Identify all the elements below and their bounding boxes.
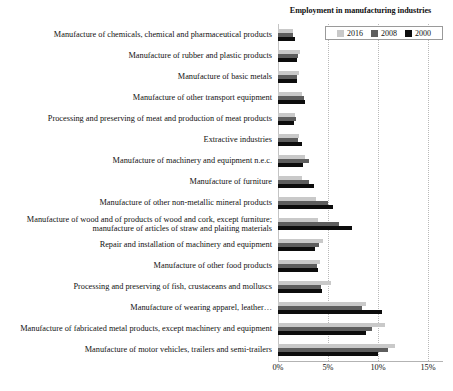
- category-label: Processing and preserving of fish, crust…: [4, 282, 272, 292]
- category-label: Manufacture of rubber and plastic produc…: [4, 51, 272, 61]
- category-label: Manufacture of basic metals: [4, 72, 272, 82]
- category-label: Manufacture of wearing apparel, leather…: [4, 303, 272, 313]
- bar-2000[interactable]: [278, 100, 305, 104]
- bar-2000[interactable]: [278, 331, 366, 335]
- bar-2000[interactable]: [278, 79, 297, 83]
- value-axis-tick-labels: 0%5%10%15%: [278, 363, 453, 377]
- bar-group: [278, 155, 443, 167]
- chart-title: Employment in manufacturing industries: [268, 6, 453, 16]
- category-label: Manufacture of other transport equipment: [4, 93, 272, 103]
- bar-group: [278, 302, 443, 314]
- bar-2000[interactable]: [278, 142, 302, 146]
- bar-group: [278, 113, 443, 125]
- bar-group: [278, 218, 443, 230]
- bar-group: [278, 323, 443, 335]
- bar-2000[interactable]: [278, 163, 303, 167]
- bar-2000[interactable]: [278, 226, 352, 230]
- legend-item-2000[interactable]: 2000: [405, 29, 431, 38]
- category-label: Manufacture of fabricated metal products…: [4, 324, 272, 334]
- chart-legend: 201620082000: [325, 26, 443, 40]
- category-label: Manufacture of wood and of products of w…: [4, 215, 272, 234]
- category-label: Manufacture of other non-metallic minera…: [4, 198, 272, 208]
- bar-2000[interactable]: [278, 205, 333, 209]
- category-label: Manufacture of machinery and equipment n…: [4, 156, 272, 166]
- category-label: Processing and preserving of meat and pr…: [4, 114, 272, 124]
- legend-item-2016[interactable]: 2016: [337, 29, 363, 38]
- category-axis-labels: Manufacture of chemicals, chemical and p…: [0, 24, 272, 361]
- employment-bar-chart: Employment in manufacturing industries 2…: [0, 0, 453, 391]
- legend-item-2008[interactable]: 2008: [371, 29, 397, 38]
- plot-area: [278, 24, 443, 361]
- bar-2000[interactable]: [278, 184, 314, 188]
- category-label: Manufacture of motor vehicles, trailers …: [4, 345, 272, 355]
- bar-2000[interactable]: [278, 58, 297, 62]
- bar-2000[interactable]: [278, 289, 322, 293]
- bar-group: [278, 176, 443, 188]
- bar-2000[interactable]: [278, 37, 295, 41]
- bar-2000[interactable]: [278, 121, 294, 125]
- bar-group: [278, 281, 443, 293]
- category-label: Extractive industries: [4, 135, 272, 145]
- legend-swatch-icon: [371, 30, 378, 37]
- category-axis-line: [278, 361, 443, 362]
- legend-swatch-icon: [405, 30, 412, 37]
- bar-2000[interactable]: [278, 352, 378, 356]
- bar-group: [278, 239, 443, 251]
- xtick-label: 10%: [370, 363, 385, 373]
- category-label: Manufacture of chemicals, chemical and p…: [4, 30, 272, 40]
- category-label: Manufacture of other food products: [4, 261, 272, 271]
- bar-group: [278, 134, 443, 146]
- bar-group: [278, 50, 443, 62]
- bar-2000[interactable]: [278, 247, 315, 251]
- legend-item-label: 2008: [381, 29, 397, 38]
- category-label: Repair and installation of machinery and…: [4, 240, 272, 250]
- legend-swatch-icon: [337, 30, 344, 37]
- xtick-label: 0%: [272, 363, 283, 373]
- category-label: Manufacture of furniture: [4, 177, 272, 187]
- bar-rows: [278, 24, 443, 361]
- legend-item-label: 2016: [347, 29, 363, 38]
- bar-group: [278, 71, 443, 83]
- bar-group: [278, 197, 443, 209]
- xtick-label: 15%: [420, 363, 435, 373]
- bar-2000[interactable]: [278, 310, 382, 314]
- legend-item-label: 2000: [415, 29, 431, 38]
- bar-group: [278, 260, 443, 272]
- bar-group: [278, 92, 443, 104]
- bar-2000[interactable]: [278, 268, 318, 272]
- bar-group: [278, 344, 443, 356]
- xtick-label: 5%: [322, 363, 333, 373]
